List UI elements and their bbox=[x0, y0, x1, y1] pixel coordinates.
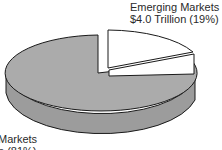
emerging-markets-value: $4.0 Trillion (19%) bbox=[130, 13, 219, 25]
developed-markets-value: n (81%) bbox=[0, 145, 37, 150]
emerging-markets-title: Emerging Markets bbox=[130, 1, 219, 13]
emerging-markets-label: Emerging Markets $4.0 Trillion (19%) bbox=[130, 1, 219, 25]
developed-markets-title: Markets bbox=[0, 133, 37, 145]
developed-markets-label: Markets n (81%) bbox=[0, 133, 37, 150]
